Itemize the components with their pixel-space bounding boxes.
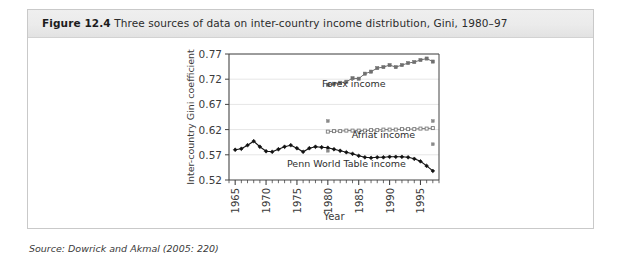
svg-text:Forex income: Forex income — [322, 78, 386, 89]
figure-caption: Figure 12.4 Three sources of data on int… — [42, 17, 507, 29]
figure-number: Figure 12.4 — [42, 17, 111, 29]
chart-plot: 0.520.570.620.670.720.77 196519701975198… — [183, 44, 443, 224]
svg-text:0.72: 0.72 — [199, 73, 222, 85]
chart-y-tick-labels: 0.520.570.620.670.720.77 — [199, 48, 229, 186]
svg-text:Year: Year — [322, 211, 345, 222]
svg-text:Inter-country Gini coefficient: Inter-country Gini coefficient — [185, 49, 196, 185]
svg-text:1995: 1995 — [415, 188, 426, 213]
svg-text:1965: 1965 — [230, 188, 241, 213]
svg-text:Penn World Table income: Penn World Table income — [287, 158, 406, 169]
chart-svg: 0.520.570.620.670.720.77 196519701975198… — [183, 44, 443, 224]
chart-x-tick-labels: 1965197019751980198519901995 — [230, 188, 426, 213]
svg-text:Afriat income: Afriat income — [352, 129, 416, 140]
svg-text:1975: 1975 — [292, 188, 303, 213]
svg-text:0.52: 0.52 — [199, 174, 222, 186]
svg-text:0.77: 0.77 — [199, 48, 222, 60]
svg-text:1980: 1980 — [323, 188, 334, 213]
svg-text:1985: 1985 — [354, 188, 365, 213]
svg-text:0.57: 0.57 — [199, 149, 222, 161]
chart-series-group — [233, 57, 434, 173]
svg-text:0.62: 0.62 — [199, 124, 222, 136]
figure-container: Figure 12.4 Three sources of data on int… — [27, 9, 594, 229]
svg-text:1970: 1970 — [261, 188, 272, 213]
svg-text:1990: 1990 — [385, 188, 396, 213]
svg-text:0.67: 0.67 — [199, 98, 222, 110]
figure-source: Source: Dowrick and Akmal (2005: 220) — [29, 243, 219, 254]
chart-x-tick-marks — [229, 180, 439, 185]
figure-caption-text: Three sources of data on inter-country i… — [114, 17, 507, 29]
